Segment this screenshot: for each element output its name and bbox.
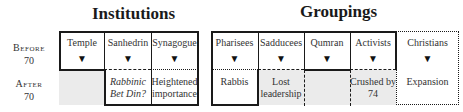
qumran-after-shade <box>304 70 350 105</box>
sadducees-label: Sadducees <box>260 37 302 48</box>
synagogue-cell: Synagogue ▼ <box>151 37 198 65</box>
rabbinic-text: Rabbinic <box>104 76 152 88</box>
activists-dashed-divider <box>350 69 396 70</box>
crushed-by-74-cell: Crushed by 74 <box>350 76 396 100</box>
christians-cell: Christians ▼ <box>396 37 459 65</box>
down-triangle-icon: ▼ <box>396 53 459 65</box>
down-triangle-icon: ▼ <box>350 53 396 65</box>
rabbinic-bet-din-cell: Rabbinic Bet Din? <box>104 76 152 100</box>
institutions-title: Institutions <box>92 4 175 24</box>
crushed-by-text: Crushed by <box>350 76 396 88</box>
christians-label: Christians <box>407 37 448 48</box>
rabbis-cell: Rabbis <box>211 76 258 88</box>
temple-bottom-border <box>59 69 105 71</box>
year-74-text: 74 <box>350 88 396 100</box>
down-triangle-icon: ▼ <box>211 53 258 65</box>
bet-din-text: Bet Din? <box>104 88 152 100</box>
activists-cell: Activists ▼ <box>350 37 396 65</box>
sanhedrin-dashed-divider <box>104 69 151 70</box>
synagogue-label: Synagogue <box>152 37 196 48</box>
activists-label: Activists <box>355 37 391 48</box>
expansion-text: Expansion <box>396 76 459 88</box>
groupings-title: Groupings <box>300 2 377 22</box>
down-triangle-icon: ▼ <box>59 53 105 65</box>
sadducees-dashed-divider <box>258 69 304 70</box>
down-triangle-icon: ▼ <box>304 53 350 65</box>
leadership-text: leadership <box>258 88 304 100</box>
synagogue-dotted-divider <box>151 69 198 70</box>
qumran-cell: Qumran ▼ <box>304 37 350 65</box>
pharisees-dotted-divider <box>211 69 258 70</box>
lost-leadership-cell: Lost leadership <box>258 76 304 100</box>
after-year: 70 <box>0 90 58 103</box>
importance-text: importance <box>151 88 198 100</box>
institutions-top-border <box>59 31 199 33</box>
qumran-label: Qumran <box>311 37 344 48</box>
sanhedrin-cell: Sanhedrin ▼ <box>104 37 152 65</box>
heightened-text: Heightened <box>151 76 198 88</box>
sanhedrin-label: Sanhedrin <box>108 37 149 48</box>
down-triangle-icon: ▼ <box>151 53 198 65</box>
institutions-bottom-border <box>104 104 199 106</box>
temple-after-shade <box>59 70 104 105</box>
pharisees-label: Pharisees <box>216 37 254 48</box>
before-label: Before <box>0 41 58 54</box>
temple-cell: Temple ▼ <box>59 37 105 65</box>
lost-text: Lost <box>258 76 304 88</box>
before-year: 70 <box>0 54 58 67</box>
after-70-label: After 70 <box>0 77 58 103</box>
temple-label: Temple <box>67 37 97 48</box>
rabbis-bottom-border <box>211 104 259 106</box>
expansion-cell: Expansion <box>396 76 459 88</box>
sadducees-cell: Sadducees ▼ <box>258 37 304 65</box>
down-triangle-icon: ▼ <box>258 53 304 65</box>
sadducees-qumran-dashed-divider <box>304 70 305 106</box>
qumran-solid-divider <box>304 69 350 71</box>
heightened-importance-cell: Heightened importance <box>151 76 198 100</box>
after-label: After <box>0 77 58 90</box>
down-triangle-icon: ▼ <box>104 53 152 65</box>
rabbis-text: Rabbis <box>211 76 258 88</box>
before-70-label: Before 70 <box>0 41 58 67</box>
pharisees-cell: Pharisees ▼ <box>211 37 258 65</box>
